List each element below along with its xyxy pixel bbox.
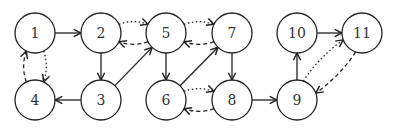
node-label: 4 (31, 92, 40, 108)
node-label: 9 (293, 92, 302, 108)
node-11: 11 (342, 13, 382, 53)
edge-2-to-5 (119, 22, 148, 25)
node-10: 10 (277, 13, 317, 53)
edge-6-to-8 (184, 89, 214, 92)
node-9: 9 (277, 80, 317, 120)
node-label: 1 (31, 25, 40, 41)
edge-4-to-1 (24, 51, 27, 82)
node-label: 6 (162, 92, 171, 108)
node-4: 4 (15, 80, 55, 120)
node-6: 6 (146, 80, 186, 120)
edge-7-to-5 (184, 42, 214, 45)
node-label: 11 (353, 25, 371, 41)
edge-5-to-2 (119, 42, 148, 45)
edge-8-to-6 (184, 109, 214, 112)
graph-canvas: 1234567891011 (0, 0, 399, 128)
node-label: 2 (97, 25, 106, 41)
edge-6-to-7 (180, 47, 218, 86)
node-label: 8 (228, 92, 237, 108)
node-1: 1 (15, 13, 55, 53)
edge-5-to-7 (184, 22, 214, 25)
node-label: 3 (97, 92, 106, 108)
node-7: 7 (212, 13, 252, 53)
node-5: 5 (146, 13, 186, 53)
node-label: 5 (162, 25, 171, 41)
edge-1-to-4 (44, 51, 47, 82)
node-label: 10 (288, 25, 306, 41)
node-2: 2 (81, 13, 121, 53)
node-8: 8 (212, 80, 252, 120)
node-label: 7 (228, 25, 237, 41)
edge-3-to-5 (115, 47, 152, 85)
node-3: 3 (81, 80, 121, 120)
